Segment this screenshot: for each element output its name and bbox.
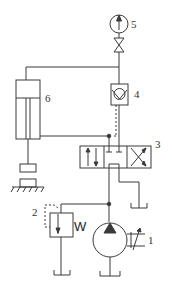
label-5: 5 <box>131 18 137 30</box>
pump <box>93 223 145 276</box>
label-4: 4 <box>134 88 140 100</box>
relief-valve <box>45 205 73 275</box>
check-valve <box>111 84 128 105</box>
hydraulic-cylinder <box>16 80 40 172</box>
hydraulic-circuit-diagram: 5 4 6 <box>0 0 172 294</box>
label-1: 1 <box>148 234 154 246</box>
spring-marker: W <box>74 219 87 234</box>
label-3: 3 <box>155 138 161 150</box>
shutoff-valve <box>114 38 124 52</box>
load-ground <box>11 179 44 192</box>
junction-dot <box>107 134 111 138</box>
label-2: 2 <box>32 206 38 218</box>
label-6: 6 <box>45 92 51 104</box>
pressure-gauge <box>110 15 128 33</box>
directional-valve <box>80 146 151 168</box>
